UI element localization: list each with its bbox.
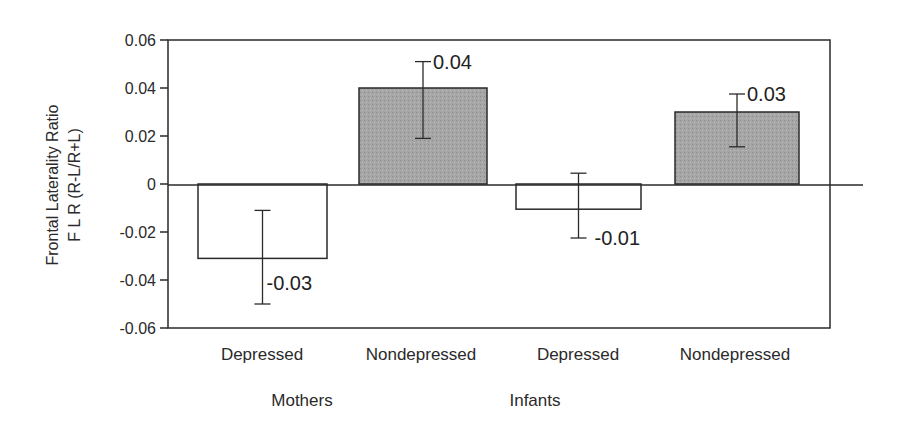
category-label: Depressed	[537, 345, 619, 364]
value-label: -0.01	[595, 227, 641, 249]
y-axis-label-line-2: F L R (R-L/R+L)	[66, 128, 83, 242]
y-axis-ticks: 0.060.040.020-0.02-0.04-0.06	[120, 32, 168, 337]
value-label: 0.03	[747, 83, 786, 105]
x-axis-group-labels: MothersInfants	[271, 391, 560, 410]
group-label-infants: Infants	[509, 391, 560, 410]
y-tick-label: -0.02	[120, 224, 157, 241]
y-axis-label-line-1: Frontal Laterality Ratio	[44, 104, 61, 265]
y-tick-label: -0.04	[120, 272, 157, 289]
bar-chart: Frontal Laterality Ratio F L R (R-L/R+L)…	[0, 0, 903, 438]
bars: -0.030.04-0.010.03	[198, 51, 799, 304]
group-label-mothers: Mothers	[271, 391, 332, 410]
category-label: Depressed	[221, 345, 303, 364]
category-label: Nondepressed	[680, 345, 791, 364]
y-tick-label: 0.04	[125, 80, 156, 97]
y-tick-label: -0.06	[120, 320, 157, 337]
y-tick-label: 0.02	[125, 128, 156, 145]
y-axis-label: Frontal Laterality Ratio F L R (R-L/R+L)	[44, 104, 83, 265]
y-tick-label: 0.06	[125, 32, 156, 49]
y-tick-label: 0	[147, 176, 156, 193]
value-label: 0.04	[433, 51, 472, 73]
value-label: -0.03	[267, 272, 313, 294]
category-label: Nondepressed	[366, 345, 477, 364]
x-axis-category-labels: DepressedNondepressedDepressedNondepress…	[221, 345, 790, 364]
